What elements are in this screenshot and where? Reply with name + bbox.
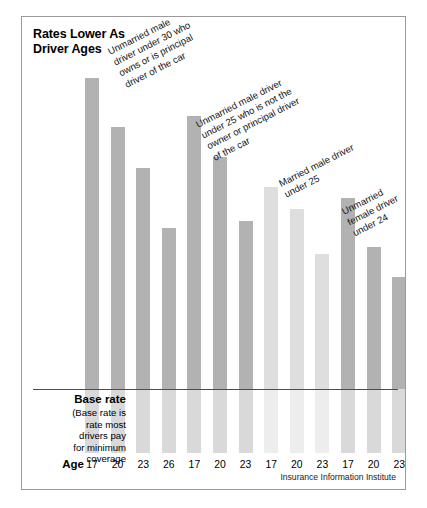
axis-tick-label: 23	[131, 459, 155, 470]
bar-segment-below-base	[315, 389, 329, 453]
bar-segment-below-base	[239, 389, 253, 453]
bar-segment-above-base	[315, 254, 329, 389]
base-rate-line	[33, 389, 398, 390]
bar-segment-below-base	[187, 389, 201, 453]
chart-figure: Rates Lower As Driver Ages 1720232617202…	[21, 16, 406, 490]
annotation-label: Unmarried male driver under 30 who owns …	[106, 16, 204, 90]
bar-segment-below-base	[264, 389, 278, 453]
bar-segment-below-base	[341, 389, 355, 453]
bar	[162, 228, 176, 453]
bar-segment-below-base	[162, 389, 176, 453]
bar	[136, 168, 150, 453]
axis-tick-label: 20	[208, 459, 232, 470]
bar-segment-below-base	[392, 389, 406, 453]
bar-segment-below-base	[213, 389, 227, 453]
source-credit: Insurance Information Institute	[280, 472, 396, 482]
bar-segment-below-base	[367, 389, 381, 453]
base-rate-caption: Base rate (Base rate is rate most driver…	[30, 393, 126, 465]
axis-tick-label: 20	[362, 459, 386, 470]
bar-segment-above-base	[85, 78, 99, 389]
bar-segment-above-base	[187, 116, 201, 390]
bar	[341, 198, 355, 453]
bar-segment-above-base	[290, 209, 304, 389]
bar	[290, 209, 304, 453]
bar-segment-above-base	[367, 247, 381, 389]
bar	[392, 277, 406, 453]
axis-tick-label: 17	[182, 459, 206, 470]
axis-tick-label: 17	[259, 459, 283, 470]
bar	[367, 247, 381, 453]
bar-segment-above-base	[162, 228, 176, 389]
bar	[187, 116, 201, 454]
annotation-label: Married male driver under 25	[277, 141, 362, 200]
bar-segment-above-base	[136, 168, 150, 389]
bar-segment-above-base	[264, 187, 278, 389]
bar	[239, 221, 253, 454]
axis-tick-label: 26	[157, 459, 181, 470]
axis-tick-label: 23	[234, 459, 258, 470]
bar-segment-below-base	[290, 389, 304, 453]
bar	[315, 254, 329, 453]
bar-segment-above-base	[239, 221, 253, 390]
bar-segment-below-base	[136, 389, 150, 453]
bar	[264, 187, 278, 453]
axis-label-age: Age	[62, 458, 84, 470]
bar-segment-above-base	[392, 277, 406, 389]
axis-tick-label: 17	[336, 459, 360, 470]
axis-tick-label: 23	[310, 459, 334, 470]
annotation-label: Unmarried male driver under 25 who is no…	[194, 74, 307, 164]
bar-segment-above-base	[213, 157, 227, 389]
bar	[213, 157, 227, 453]
base-rate-body: (Base rate is rate most drivers pay for …	[30, 407, 126, 465]
base-rate-title: Base rate	[30, 393, 126, 406]
axis-tick-label: 23	[387, 459, 406, 470]
axis-tick-label: 20	[285, 459, 309, 470]
bar-segment-above-base	[111, 127, 125, 389]
